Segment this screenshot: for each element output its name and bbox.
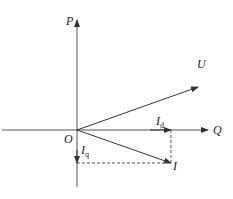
origin-label: O bbox=[64, 132, 73, 146]
u-label: U bbox=[197, 57, 207, 71]
id-label: Id bbox=[155, 114, 164, 130]
i-vector bbox=[77, 130, 171, 163]
u-vector bbox=[77, 87, 198, 130]
iq-label: Iq bbox=[80, 143, 89, 159]
p-axis-label: P bbox=[65, 14, 74, 28]
q-axis-label: Q bbox=[213, 123, 222, 137]
i-label: I bbox=[172, 159, 178, 173]
phasor-diagram: P Q O U I Id Iq bbox=[0, 0, 233, 199]
